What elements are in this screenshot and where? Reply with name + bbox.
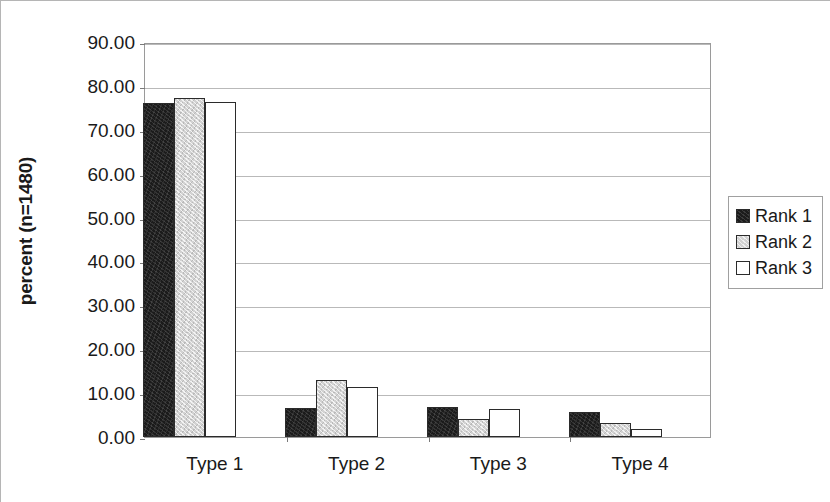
x-axis-tickmark (429, 437, 430, 442)
y-axis-tick-label: 10.00 (47, 384, 135, 403)
legend-swatch-icon (736, 235, 750, 249)
x-axis-tick-label: Type 3 (428, 453, 570, 475)
x-axis-tick-label: Type 1 (144, 453, 286, 475)
x-axis-tickmark (287, 437, 288, 442)
legend-swatch-icon (736, 261, 750, 275)
x-axis-tick-labels: Type 1Type 2Type 3Type 4 (144, 453, 711, 483)
bar (569, 412, 600, 437)
bar-group (570, 44, 712, 437)
legend-label: Rank 2 (755, 233, 812, 251)
y-axis-tick-labels: 90.0080.0070.0060.0050.0040.0030.0020.00… (47, 43, 135, 438)
bar (316, 380, 347, 437)
legend-label: Rank 3 (755, 259, 812, 277)
bar (489, 409, 520, 437)
bar-chart-figure: percent (n=1480) 90.0080.0070.0060.0050.… (0, 0, 830, 502)
legend-item: Rank 2 (736, 229, 817, 255)
y-axis-tickmark (140, 439, 145, 440)
bar (205, 102, 236, 437)
y-axis-tick-label: 20.00 (47, 340, 135, 359)
bar (427, 407, 458, 437)
y-axis-tick-label: 40.00 (47, 252, 135, 271)
legend: Rank 1Rank 2Rank 3 (728, 196, 823, 289)
y-axis-tick-label: 50.00 (47, 209, 135, 228)
x-axis-tickmark (570, 437, 571, 442)
legend-swatch-icon (736, 209, 750, 223)
x-axis-tick-label: Type 2 (286, 453, 428, 475)
y-axis-tick-label: 70.00 (47, 121, 135, 140)
legend-label: Rank 1 (755, 207, 812, 225)
y-axis-tick-label: 30.00 (47, 296, 135, 315)
y-axis-tick-label: 80.00 (47, 77, 135, 96)
bar-group (287, 44, 429, 437)
y-axis-tick-label: 0.00 (47, 428, 135, 447)
bar (143, 103, 174, 437)
y-axis-tick-label: 90.00 (47, 33, 135, 52)
bar (174, 98, 205, 437)
plot-area (144, 43, 711, 438)
legend-item: Rank 1 (736, 203, 817, 229)
bar (458, 419, 489, 437)
bar (285, 408, 316, 437)
bar (600, 423, 631, 437)
y-axis-title: percent (n=1480) (15, 111, 37, 351)
bar (347, 387, 378, 437)
bar-group (145, 44, 287, 437)
bar-group (429, 44, 571, 437)
bars-layer (145, 44, 710, 437)
bar (631, 429, 662, 437)
x-axis-tick-label: Type 4 (569, 453, 711, 475)
y-axis-tick-label: 60.00 (47, 165, 135, 184)
legend-item: Rank 3 (736, 255, 817, 281)
